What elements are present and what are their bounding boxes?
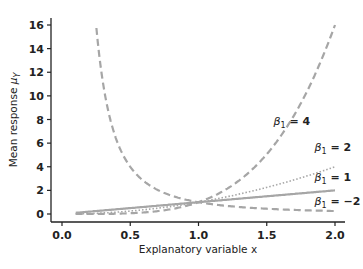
x-axis-label: Explanatory variable x <box>139 243 257 255</box>
y-tick-label: 0 <box>36 208 44 221</box>
y-tick-label: 14 <box>29 43 45 56</box>
y-axis-label: Mean response μY <box>7 72 22 168</box>
chart: 02468101214160.00.51.01.52.0 β1 = 4β1 = … <box>0 0 363 269</box>
y-tick-label: 8 <box>36 114 44 127</box>
series-label: β1 = 2 <box>314 141 352 156</box>
series-label: β1 = 4 <box>273 115 311 130</box>
x-tick-label: 0.5 <box>121 229 141 242</box>
y-tick-label: 6 <box>36 137 44 150</box>
y-tick-label: 4 <box>36 161 44 174</box>
series-label: β1 = −2 <box>314 195 361 210</box>
series-label: β1 = 1 <box>314 171 352 186</box>
x-tick-label: 2.0 <box>325 229 345 242</box>
y-tick-label: 16 <box>29 19 45 32</box>
x-tick-label: 0.0 <box>52 229 72 242</box>
y-tick-label: 10 <box>29 90 45 103</box>
x-tick-label: 1.5 <box>257 229 277 242</box>
curve-beta-2 <box>76 167 335 214</box>
axes: 02468101214160.00.51.01.52.0 <box>29 18 345 242</box>
x-tick-label: 1.0 <box>189 229 209 242</box>
y-tick-label: 2 <box>36 184 44 197</box>
y-tick-label: 12 <box>29 66 44 79</box>
